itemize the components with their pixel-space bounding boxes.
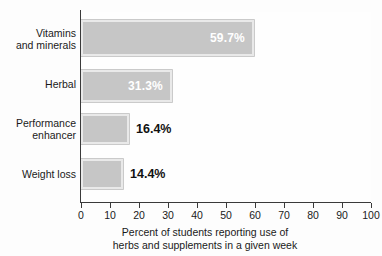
bar-value-weight-loss: 14.4% xyxy=(130,167,165,181)
bar-performance-enhancer[interactable] xyxy=(81,114,129,144)
x-tick-mark-70 xyxy=(284,203,285,208)
category-label-vitamins-and-minerals: Vitamins and minerals xyxy=(0,28,76,51)
bar-value-herbal: 31.3% xyxy=(128,79,163,93)
x-tick-mark-60 xyxy=(255,203,256,208)
x-tick-mark-30 xyxy=(168,203,169,208)
x-tick-mark-20 xyxy=(139,203,140,208)
bar-vitamins-and-minerals[interactable]: 59.7% xyxy=(81,20,254,56)
x-tick-mark-40 xyxy=(197,203,198,208)
x-tick-label-100: 100 xyxy=(351,209,382,221)
category-label-performance-enhancer: Performance enhancer xyxy=(0,118,76,141)
category-label-weight-loss: Weight loss xyxy=(0,169,76,181)
bar-value-performance-enhancer: 16.4% xyxy=(136,122,171,136)
bar-herbal[interactable]: 31.3% xyxy=(81,70,172,102)
x-axis-title: Percent of students reporting use of her… xyxy=(60,226,350,251)
x-tick-mark-100 xyxy=(371,203,372,208)
y-axis-line xyxy=(80,10,81,203)
x-tick-mark-10 xyxy=(110,203,111,208)
x-tick-mark-80 xyxy=(313,203,314,208)
x-tick-mark-50 xyxy=(226,203,227,208)
bar-value-vitamins-and-minerals: 59.7% xyxy=(210,31,245,45)
category-label-herbal: Herbal xyxy=(0,79,76,91)
bar-chart: Vitamins and minerals Herbal Performance… xyxy=(0,0,382,256)
bar-weight-loss[interactable] xyxy=(81,159,123,189)
x-tick-mark-90 xyxy=(342,203,343,208)
x-tick-mark-0 xyxy=(81,203,82,208)
